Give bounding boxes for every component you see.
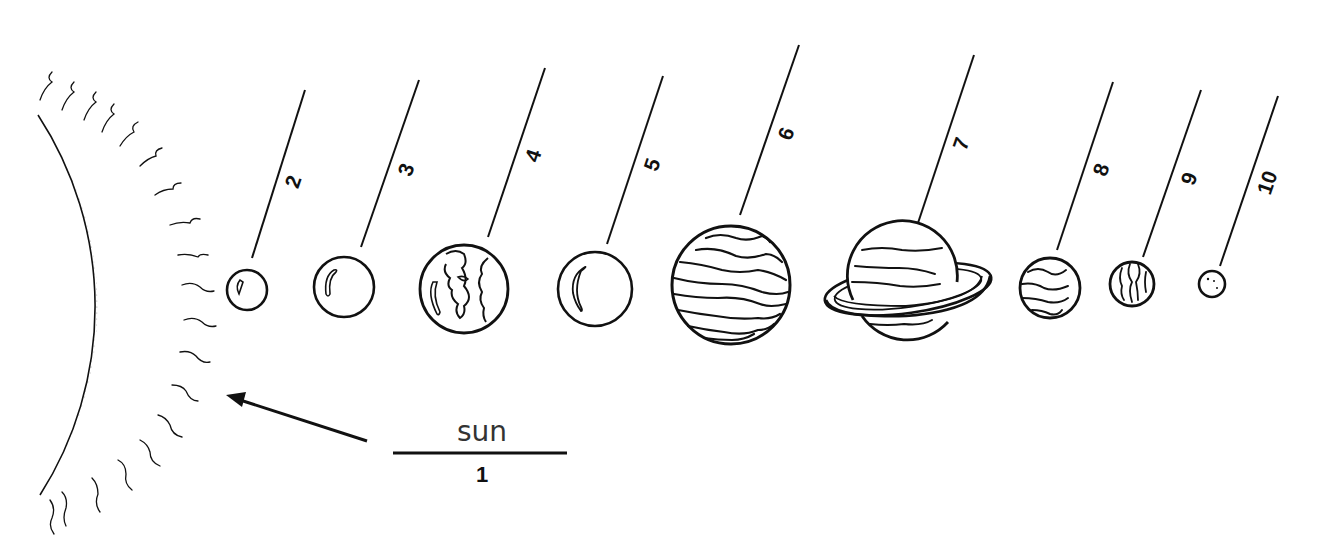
sun-label-group: sun 1 xyxy=(226,392,567,487)
planet-number-7: 7 xyxy=(948,134,974,153)
sun-arrow-shaft xyxy=(240,400,367,441)
planet-3-icon xyxy=(314,257,374,317)
sun-rays xyxy=(40,72,216,534)
planet-number-10: 10 xyxy=(1252,168,1281,198)
sun-number-label: 1 xyxy=(476,462,488,487)
sun-illustration xyxy=(38,72,216,534)
planet-number-6: 6 xyxy=(773,124,799,143)
sun-word-label: sun xyxy=(457,415,507,448)
answer-line-2[interactable] xyxy=(252,90,305,258)
planet-number-2: 2 xyxy=(280,172,306,191)
sun-arrow-head-icon xyxy=(226,392,246,407)
planet-9-icon xyxy=(1110,262,1154,306)
planet-4-icon xyxy=(420,245,508,333)
planet-number-5: 5 xyxy=(639,155,665,174)
planet-6-icon xyxy=(672,226,790,344)
solar-system-diagram: sun 1 2 3 4 5 6 7 8 9 10 xyxy=(0,0,1326,556)
planet-number-labels: 2 3 4 5 6 7 8 9 10 xyxy=(280,124,1281,197)
planet-7-icon xyxy=(821,221,994,340)
answer-line-3[interactable] xyxy=(361,80,419,247)
sun-edge xyxy=(38,115,95,495)
planet-10-icon xyxy=(1199,271,1225,297)
planet-number-9: 9 xyxy=(1176,169,1202,188)
planet-5-icon xyxy=(558,252,632,326)
planet-answer-lines xyxy=(252,45,1278,266)
answer-line-9[interactable] xyxy=(1143,90,1201,257)
planet-8-icon xyxy=(1020,258,1080,318)
planet-number-8: 8 xyxy=(1088,160,1114,179)
planet-2-icon xyxy=(227,270,267,310)
planet-number-4: 4 xyxy=(520,146,546,165)
planet-number-3: 3 xyxy=(393,160,419,179)
